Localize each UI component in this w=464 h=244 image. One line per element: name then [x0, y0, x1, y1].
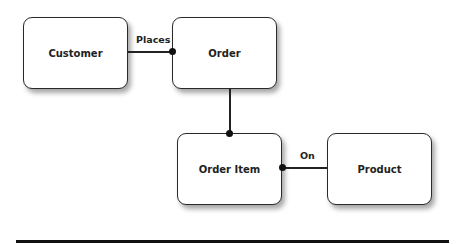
connector-order-orderitem	[229, 89, 231, 133]
entity-label: Customer	[48, 48, 102, 59]
connector-orderitem-product	[282, 167, 327, 169]
many-end-dot-orderitem-right	[279, 164, 286, 171]
entity-label: Order	[208, 48, 240, 59]
entity-product: Product	[327, 133, 432, 205]
relationship-label-places: Places	[136, 34, 170, 45]
entity-customer: Customer	[23, 17, 128, 89]
entity-label: Product	[357, 164, 401, 175]
entity-order: Order	[172, 17, 277, 89]
connector-customer-order	[128, 51, 172, 53]
bottom-rule	[16, 240, 449, 243]
entity-order-item: Order Item	[177, 133, 282, 205]
many-end-dot-orderitem-top	[226, 130, 233, 137]
relationship-label-on: On	[300, 150, 315, 161]
entity-label: Order Item	[199, 164, 261, 175]
many-end-dot-order	[169, 48, 176, 55]
